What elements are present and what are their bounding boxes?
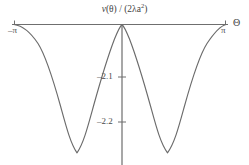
x-axis-title: Θ [233,18,240,28]
potential-curve [14,25,226,153]
y-tick-label-2-1: –2.1 [97,72,113,81]
plot-canvas [0,0,249,165]
plot-title-close: ) [144,4,147,14]
potential-plot-figure: v(θ) / (2λa2) –π π Θ –2.1 –2.2 [0,0,249,165]
plot-title: v(θ) / (2λa2) [0,3,249,15]
x-tick-label-minus-pi: –π [8,26,17,35]
plot-title-argument: (θ) / (2λa [106,4,141,14]
x-tick-label-pi: π [221,26,226,35]
y-tick-label-2-2: –2.2 [97,117,113,126]
